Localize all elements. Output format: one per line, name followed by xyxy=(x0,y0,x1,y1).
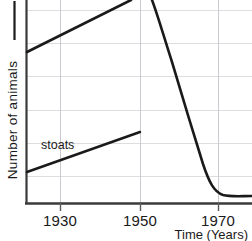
y-axis-title: Number of animals xyxy=(5,61,20,179)
chart-background xyxy=(0,0,252,241)
x-axis-title: Time (Years) xyxy=(175,227,248,241)
x-tick-label-1930: 1930 xyxy=(43,212,77,229)
chart-canvas: stoats 1930 1950 1970 Time (Years) Numbe… xyxy=(0,0,252,241)
series-label-stoats: stoats xyxy=(41,138,74,152)
chart-figure: stoats 1930 1950 1970 Time (Years) Numbe… xyxy=(0,0,252,241)
x-tick-label-1950: 1950 xyxy=(123,212,157,229)
